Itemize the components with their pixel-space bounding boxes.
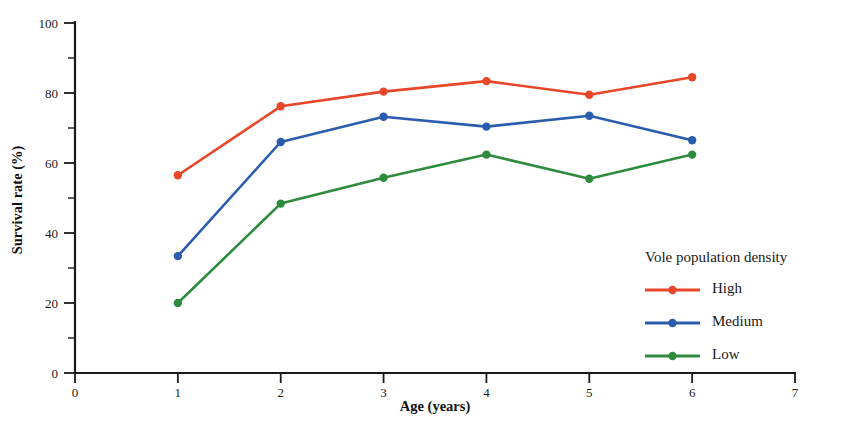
x-axis-ticks xyxy=(75,373,795,383)
y-tick-label: 80 xyxy=(45,86,58,101)
legend-label-high: High xyxy=(712,280,743,296)
legend-label-low: Low xyxy=(712,346,740,362)
data-point[interactable] xyxy=(174,171,182,179)
data-point[interactable] xyxy=(585,112,593,120)
y-axis-title: Survival rate (%) xyxy=(9,145,26,254)
x-tick-label: 6 xyxy=(689,385,696,400)
data-point[interactable] xyxy=(688,136,696,144)
x-axis-group: 01234567 Age (years) xyxy=(72,373,799,415)
data-point[interactable] xyxy=(277,138,285,146)
legend-item-medium[interactable]: Medium xyxy=(645,313,763,329)
data-point[interactable] xyxy=(174,299,182,307)
legend-marker-medium xyxy=(668,319,676,327)
legend-marker-low xyxy=(668,352,676,360)
data-point[interactable] xyxy=(688,150,696,158)
legend-item-low[interactable]: Low xyxy=(645,346,740,362)
x-tick-label: 5 xyxy=(586,385,593,400)
series-medium xyxy=(174,112,697,261)
y-axis-tick-labels: 020406080100 xyxy=(39,16,59,381)
data-point[interactable] xyxy=(585,91,593,99)
legend-item-high[interactable]: High xyxy=(645,280,743,296)
chart-legend: Vole population density HighMediumLow xyxy=(645,249,788,362)
y-tick-label: 40 xyxy=(45,226,58,241)
series-line-high xyxy=(178,77,692,175)
data-series-group xyxy=(174,73,697,307)
y-tick-label: 100 xyxy=(39,16,59,31)
y-tick-label: 60 xyxy=(45,156,58,171)
legend-title: Vole population density xyxy=(645,249,788,265)
data-point[interactable] xyxy=(688,73,696,81)
data-point[interactable] xyxy=(585,175,593,183)
y-tick-label: 20 xyxy=(45,296,58,311)
x-tick-label: 4 xyxy=(483,385,490,400)
x-tick-label: 3 xyxy=(380,385,387,400)
series-line-low xyxy=(178,155,692,303)
y-axis-group: 020406080100 Survival rate (%) xyxy=(9,16,75,381)
data-point[interactable] xyxy=(174,252,182,260)
data-point[interactable] xyxy=(277,199,285,207)
legend-marker-high xyxy=(668,286,676,294)
series-line-medium xyxy=(178,116,692,256)
data-point[interactable] xyxy=(482,122,490,130)
x-tick-label: 2 xyxy=(277,385,284,400)
y-axis-ticks xyxy=(64,23,75,373)
line-chart-svg: 020406080100 Survival rate (%) 01234567 … xyxy=(0,0,848,430)
chart-container: 020406080100 Survival rate (%) 01234567 … xyxy=(0,0,848,430)
data-point[interactable] xyxy=(379,174,387,182)
data-point[interactable] xyxy=(482,77,490,85)
x-tick-label: 1 xyxy=(175,385,182,400)
x-tick-label: 0 xyxy=(72,385,79,400)
data-point[interactable] xyxy=(482,150,490,158)
y-tick-label: 0 xyxy=(52,366,59,381)
data-point[interactable] xyxy=(379,87,387,95)
legend-entries: HighMediumLow xyxy=(645,280,763,362)
x-axis-title: Age (years) xyxy=(400,398,471,415)
legend-label-medium: Medium xyxy=(712,313,763,329)
series-high xyxy=(174,73,697,179)
data-point[interactable] xyxy=(379,113,387,121)
data-point[interactable] xyxy=(277,102,285,110)
x-tick-label: 7 xyxy=(792,385,799,400)
